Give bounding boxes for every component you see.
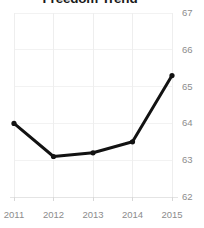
y-axis-label-63: 63 — [182, 155, 202, 165]
x-axis-label-2015: 2015 — [152, 210, 192, 220]
data-point-2013 — [90, 150, 95, 155]
y-axis-label-66: 66 — [182, 45, 202, 55]
data-point-2011 — [11, 121, 16, 126]
y-axis-label-64: 64 — [182, 118, 202, 128]
x-axis-label-2014: 2014 — [113, 210, 153, 220]
x-axis-label-2013: 2013 — [73, 210, 113, 220]
y-axis-label-67: 67 — [182, 8, 202, 18]
data-point-2015 — [169, 73, 174, 78]
data-point-2014 — [130, 139, 135, 144]
x-axis-label-2012: 2012 — [34, 210, 74, 220]
y-axis-label-62: 62 — [182, 192, 202, 202]
chart-plot-svg — [0, 0, 204, 228]
chart-container: Freedom Trend — [0, 0, 204, 228]
vertical-gridlines — [14, 13, 172, 197]
data-point-2012 — [51, 154, 56, 159]
y-axis-label-65: 65 — [182, 82, 202, 92]
x-axis-label-2011: 2011 — [0, 210, 34, 220]
x-axis-ticks — [14, 197, 172, 201]
